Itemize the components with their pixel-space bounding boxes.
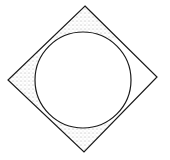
diagram-canvas [0, 0, 170, 160]
inscribed-circle [35, 32, 131, 128]
geometry-figure [0, 0, 170, 160]
shaded-corners [0, 0, 130, 160]
shaded-left-corner [0, 40, 40, 120]
